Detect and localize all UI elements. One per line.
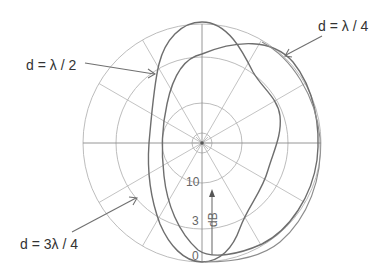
label-d-lambda-quarter: d = λ / 4: [318, 18, 368, 34]
db-unit-label: dB: [206, 212, 220, 227]
scale-label-3: 3: [192, 214, 199, 228]
label-d-three-lambda-quarter: d = 3λ / 4: [20, 236, 78, 252]
leader-three-lambda-quarter: [72, 198, 136, 232]
db-arrow-head-icon: [209, 189, 215, 197]
polar-pattern-diagram: 10 3 0 dB d = λ / 2 d = λ / 4 d = 3λ / 4: [0, 0, 386, 278]
leader-lambda-half: [85, 63, 154, 74]
label-d-lambda-half: d = λ / 2: [26, 57, 76, 73]
scale-label-0: 0: [192, 249, 199, 263]
db-scale: 10 3 0 dB: [186, 175, 220, 263]
scale-label-10: 10: [186, 175, 200, 189]
curve-d-lambda-quarter: [162, 44, 318, 255]
leader-lambda-quarter: [286, 36, 322, 55]
curve-d-three-lambda-quarter: [205, 42, 320, 262]
